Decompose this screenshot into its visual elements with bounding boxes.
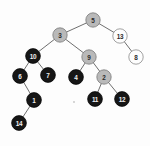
tree-edge-9-4 — [80, 63, 85, 71]
tree-node-6[interactable]: 6 — [13, 69, 28, 84]
tree-node-7[interactable]: 7 — [41, 68, 56, 83]
tree-node-12[interactable]: 12 — [115, 92, 130, 107]
tree-edge-3-10 — [39, 39, 54, 51]
tree-node-5[interactable]: 5 — [86, 13, 100, 27]
tree-node-4[interactable]: 4 — [69, 70, 84, 85]
tree-node-9[interactable]: 9 — [82, 50, 96, 64]
tree-edge-10-7 — [38, 62, 44, 69]
tree-edge-13-8 — [124, 42, 131, 52]
tree-edge-10-6 — [24, 62, 29, 70]
tree-node-3[interactable]: 3 — [53, 28, 67, 42]
tree-edge-9-2 — [93, 63, 99, 71]
tree-edge-3-9 — [66, 39, 84, 52]
tree-edge-2-11 — [98, 84, 101, 92]
tree-node-10[interactable]: 10 — [26, 49, 41, 64]
tree-node-8[interactable]: 8 — [129, 50, 143, 64]
node-label-10: 10 — [30, 53, 37, 60]
node-label-11: 11 — [92, 96, 99, 103]
tree-edge-2-12 — [109, 83, 118, 94]
tree-edge-5-3 — [67, 23, 87, 32]
tree-node-2[interactable]: 2 — [97, 70, 111, 84]
tree-node-13[interactable]: 13 — [113, 29, 127, 43]
node-label-13: 13 — [117, 33, 124, 40]
tree-node-1[interactable]: 1 — [27, 93, 42, 108]
tree-canvas: 5313810967421111214 — [0, 0, 150, 146]
tree-node-11[interactable]: 11 — [88, 92, 103, 107]
node-label-14: 14 — [16, 120, 23, 127]
node-layer: 5313810967421111214 — [12, 13, 144, 131]
node-label-12: 12 — [119, 96, 126, 103]
red-black-tree-figure: 5313810967421111214 — [0, 0, 150, 146]
tree-edge-5-13 — [99, 24, 114, 33]
image-speck — [73, 101, 75, 103]
tree-node-14[interactable]: 14 — [12, 116, 27, 131]
tree-edge-1-14 — [23, 106, 30, 117]
tree-edge-6-1 — [24, 82, 31, 93]
